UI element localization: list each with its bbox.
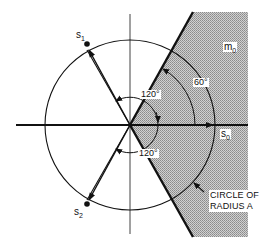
vector-s1 — [89, 50, 130, 125]
circle-note-line1: CIRCLE OF — [210, 190, 259, 201]
angle-label-upper: 120° — [140, 90, 161, 99]
circle-note-line2: RADIUS A — [210, 201, 259, 212]
label-s1-sub: 1 — [81, 35, 85, 42]
label-s2: s2 — [74, 207, 83, 217]
label-s0-sub: 0 — [226, 134, 230, 141]
label-m0: m0 — [223, 42, 237, 52]
circle-radius-note: CIRCLE OF RADIUS A — [209, 190, 260, 212]
point-s1 — [84, 41, 90, 47]
vector-s2 — [89, 125, 130, 200]
angle-label-60: 60° — [193, 78, 209, 87]
label-s1: s1 — [76, 30, 85, 40]
signal-constellation-diagram — [0, 0, 269, 251]
label-m0-sub: 0 — [232, 47, 236, 54]
angle-label-lower: 120° — [138, 149, 159, 158]
point-s2 — [84, 201, 90, 207]
label-s0: s0 — [220, 129, 231, 139]
label-s2-sub: 2 — [79, 212, 83, 219]
